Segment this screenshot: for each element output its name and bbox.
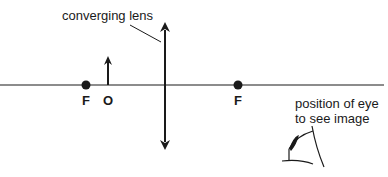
focal-point-right — [234, 81, 243, 90]
eye-position-label-line2: to see image — [295, 111, 369, 126]
eye-icon — [282, 126, 324, 167]
lens-leader-line — [130, 25, 161, 42]
object-label: O — [103, 93, 113, 108]
eye-position-label-line1: position of eye — [295, 96, 379, 111]
converging-lens — [160, 22, 170, 150]
focal-point-left — [82, 81, 91, 90]
lens-label: converging lens — [62, 8, 153, 23]
object-arrow — [104, 56, 112, 85]
diagram-canvas — [0, 0, 388, 177]
focal-label-right: F — [234, 93, 242, 108]
focal-label-left: F — [82, 93, 90, 108]
